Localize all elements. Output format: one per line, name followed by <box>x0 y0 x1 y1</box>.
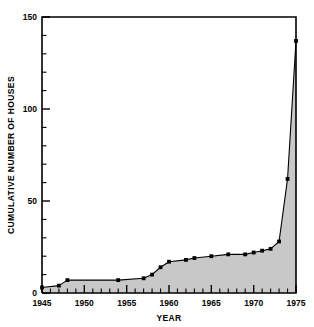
data-line <box>42 41 296 288</box>
data-point <box>260 249 264 253</box>
y-tick-label: 50 <box>28 196 38 206</box>
data-point <box>286 177 290 181</box>
x-axis-title: YEAR <box>156 313 181 323</box>
area-fill <box>42 41 296 293</box>
data-point <box>243 252 247 256</box>
data-point <box>116 278 120 282</box>
data-point <box>193 256 197 260</box>
y-axis-ticks <box>42 17 50 293</box>
chart-canvas: 0501001501945195019551960196519701975YEA… <box>0 0 314 327</box>
y-axis-title: CUMULATIVE NUMBER OF HOUSES <box>6 76 16 234</box>
data-point <box>167 260 171 264</box>
data-point <box>226 252 230 256</box>
x-tick-labels: 1945195019551960196519701975 <box>33 298 306 308</box>
x-tick-label: 1960 <box>160 298 179 308</box>
data-point <box>184 258 188 262</box>
y-tick-label: 100 <box>23 104 37 114</box>
chart-figure: 0501001501945195019551960196519701975YEA… <box>0 0 314 327</box>
x-tick-label: 1965 <box>202 298 221 308</box>
x-tick-label: 1950 <box>75 298 94 308</box>
data-point <box>150 273 154 277</box>
x-tick-label: 1945 <box>33 298 52 308</box>
data-point <box>209 254 213 258</box>
x-tick-label: 1975 <box>287 298 306 308</box>
y-tick-label: 150 <box>23 12 37 22</box>
data-point <box>277 240 281 244</box>
data-point <box>159 265 163 269</box>
x-tick-label: 1970 <box>244 298 263 308</box>
data-point <box>57 284 61 288</box>
y-tick-label: 0 <box>32 288 37 298</box>
data-point <box>66 278 70 282</box>
y-tick-labels: 050100150 <box>23 12 37 298</box>
data-point <box>252 251 256 255</box>
x-tick-label: 1955 <box>117 298 136 308</box>
data-point <box>142 276 146 280</box>
data-point <box>269 247 273 251</box>
